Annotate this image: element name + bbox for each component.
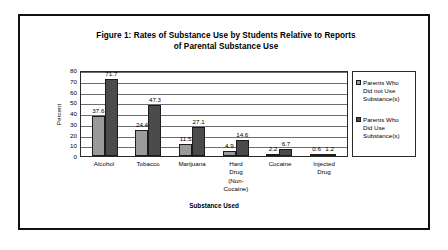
bar-group: 0.61.2 xyxy=(303,72,343,156)
chart-title-line-1: Figure 1: Rates of Substance Use by Stud… xyxy=(96,31,355,40)
bar-group: 37.671.7 xyxy=(85,72,125,156)
bar-value-label: 6.7 xyxy=(282,141,291,147)
bar-parents-no-use[interactable]: 0.6 xyxy=(310,154,323,156)
bar-parents-use[interactable]: 14.6 xyxy=(236,140,249,156)
legend-swatch-icon xyxy=(356,117,361,122)
y-axis-tick-label: 10 xyxy=(60,143,77,149)
legend-entry[interactable]: Parents WhoDid not UseSubstance(s) xyxy=(356,79,412,103)
plot-area: 37.671.724.447.311.527.14.914.62.26.70.6… xyxy=(80,71,348,157)
bar-parents-use[interactable]: 1.2 xyxy=(323,154,336,156)
bars-layer: 37.671.724.447.311.527.14.914.62.26.70.6… xyxy=(81,72,347,156)
bar-value-label: 11.5 xyxy=(180,136,192,142)
bar-value-label: 24.4 xyxy=(136,122,148,128)
y-axis-tick-label: 50 xyxy=(60,100,77,106)
bar-value-label: 14.6 xyxy=(236,132,248,138)
chart-legend: Parents WhoDid not UseSubstance(s)Parent… xyxy=(352,71,416,157)
bar-parents-use[interactable]: 6.7 xyxy=(279,149,292,156)
y-axis-tick-label: 80 xyxy=(60,68,77,74)
bar-parents-no-use[interactable]: 4.9 xyxy=(223,151,236,156)
bar-value-label: 1.2 xyxy=(325,146,334,152)
chart-title: Figure 1: Rates of Substance Use by Stud… xyxy=(36,30,416,52)
bar-parents-no-use[interactable]: 24.4 xyxy=(135,130,148,156)
y-axis-tick-label: 30 xyxy=(60,122,77,128)
bar-value-label: 37.6 xyxy=(92,108,104,114)
bar-parents-use[interactable]: 27.1 xyxy=(192,127,205,156)
bar-group: 24.447.3 xyxy=(128,72,168,156)
x-axis-tick-label: Tobacco xyxy=(128,160,168,194)
x-axis-label: Substance Used xyxy=(80,202,348,209)
bar-parents-no-use[interactable]: 2.2 xyxy=(266,154,279,156)
x-axis-tick-label: HardDrug(Non-Cocaine) xyxy=(216,160,256,194)
legend-swatch-icon xyxy=(356,80,361,85)
bar-parents-use[interactable]: 71.7 xyxy=(105,79,118,156)
x-axis-tick-label: Marijuana xyxy=(172,160,212,194)
bar-parents-no-use[interactable]: 11.5 xyxy=(179,144,192,156)
x-axis-tick-label: Alcohol xyxy=(84,160,124,194)
bar-parents-use[interactable]: 47.3 xyxy=(148,105,161,156)
y-axis-tick-label: 70 xyxy=(60,79,77,85)
bar-value-label: 47.3 xyxy=(149,97,161,103)
x-axis-ticks: AlcoholTobaccoMarijuanaHardDrug(Non-Coca… xyxy=(80,160,348,194)
bar-value-label: 27.1 xyxy=(193,119,205,125)
bar-parents-no-use[interactable]: 37.6 xyxy=(92,116,105,156)
y-axis-tick-label: 40 xyxy=(60,111,77,117)
y-axis-tick-label: 60 xyxy=(60,89,77,95)
legend-label: Parents WhoDid UseSubstance(s) xyxy=(363,116,399,140)
y-axis-ticks: 80706050403020100 xyxy=(60,71,77,157)
chart-title-line-2: of Parental Substance Use xyxy=(36,41,416,52)
legend-label: Parents WhoDid not UseSubstance(s) xyxy=(363,79,399,103)
bar-value-label: 71.7 xyxy=(105,71,117,77)
x-axis-tick-label: Cocaine xyxy=(260,160,300,194)
figure-frame: Figure 1: Rates of Substance Use by Stud… xyxy=(18,14,430,230)
bar-value-label: 0.6 xyxy=(312,146,321,152)
bar-group: 11.527.1 xyxy=(172,72,212,156)
bar-group: 4.914.6 xyxy=(216,72,256,156)
bar-group: 2.26.7 xyxy=(259,72,299,156)
bar-value-label: 2.2 xyxy=(269,146,278,152)
y-axis-tick-label: 0 xyxy=(60,154,77,160)
x-axis-tick-label: InjectedDrug xyxy=(304,160,344,194)
bar-value-label: 4.9 xyxy=(225,143,234,149)
legend-entry[interactable]: Parents WhoDid UseSubstance(s) xyxy=(356,116,412,140)
y-axis-tick-label: 20 xyxy=(60,132,77,138)
